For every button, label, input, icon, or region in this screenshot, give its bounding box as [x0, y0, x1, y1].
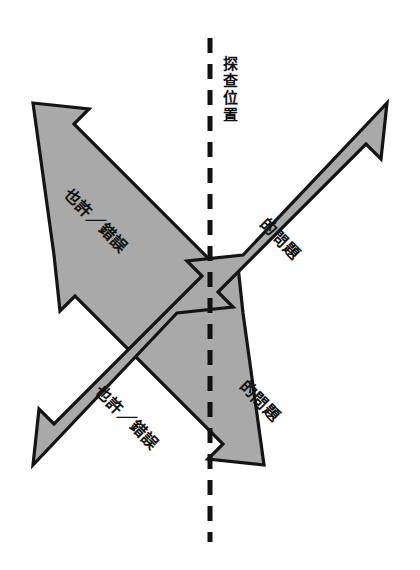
probe-position-label: 探查位置: [221, 56, 237, 124]
diagram-svg: [0, 0, 420, 570]
diagram-canvas: 探查位置 也許／錯誤 也許／錯誤 的問題 的問題: [0, 0, 420, 570]
